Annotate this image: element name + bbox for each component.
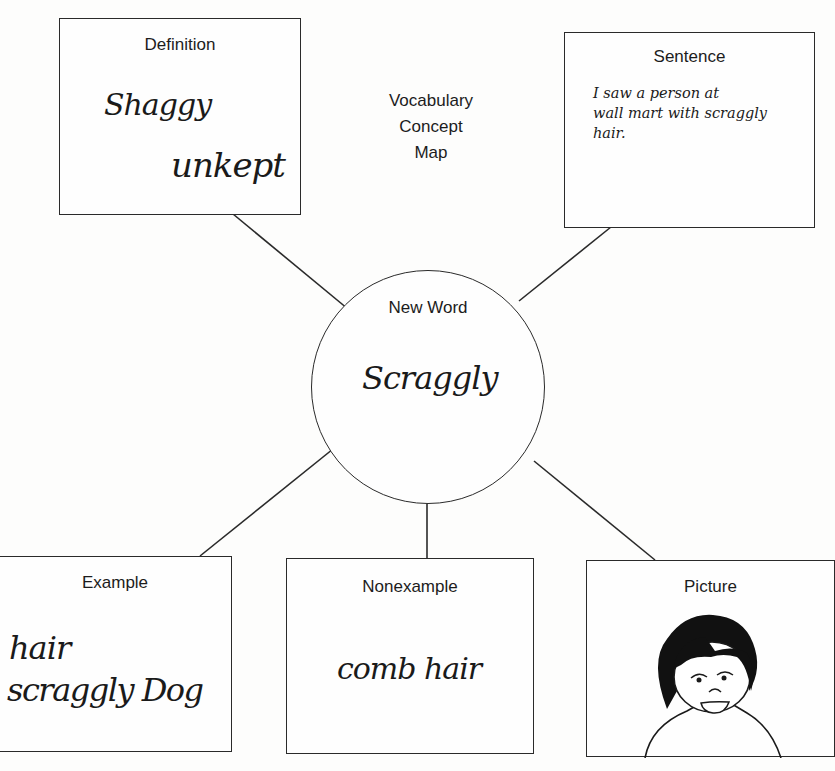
new-word-label: New Word xyxy=(312,298,544,318)
nonexample-box[interactable]: Nonexample comb hair xyxy=(286,558,534,754)
nonexample-label: Nonexample xyxy=(287,577,533,597)
sentence-label: Sentence xyxy=(565,47,814,67)
connector-picture xyxy=(534,461,655,560)
definition-line-2: unkept xyxy=(171,145,285,185)
connector-definition xyxy=(233,214,348,309)
new-word-circle[interactable]: New Word Scraggly xyxy=(311,270,545,504)
face-drawing-icon xyxy=(587,561,835,758)
example-line-1: hair xyxy=(9,629,70,667)
example-line-2: scraggly Dog xyxy=(7,671,203,709)
definition-label: Definition xyxy=(60,35,300,55)
map-title: Vocabulary Concept Map xyxy=(366,88,496,166)
picture-box[interactable]: Picture xyxy=(586,560,835,757)
title-line-1: Vocabulary xyxy=(366,88,496,114)
sentence-text: I saw a person at wall mart with scraggl… xyxy=(593,83,808,143)
nonexample-value: comb hair xyxy=(337,651,481,686)
definition-line-1: Shaggy xyxy=(104,87,211,122)
example-box[interactable]: Example hair scraggly Dog xyxy=(0,556,232,752)
title-line-3: Map xyxy=(366,140,496,166)
title-line-2: Concept xyxy=(366,114,496,140)
example-label: Example xyxy=(0,573,231,593)
new-word-value: Scraggly xyxy=(362,359,496,397)
sentence-box[interactable]: Sentence I saw a person at wall mart wit… xyxy=(564,32,815,228)
connector-sentence xyxy=(519,227,611,301)
connector-example xyxy=(200,449,333,556)
definition-box[interactable]: Definition Shaggy unkept xyxy=(59,18,301,215)
